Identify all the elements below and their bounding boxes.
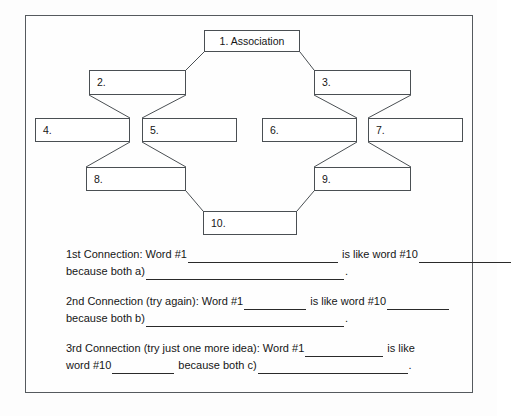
prompt-second-line-2: because both b). [66, 310, 456, 327]
answer-blank-word1-first[interactable] [188, 250, 338, 263]
tree-node-label: 1. Association [220, 36, 285, 47]
answer-blank-reason-a[interactable] [146, 267, 344, 280]
tree-node-n10[interactable]: 10. [203, 211, 297, 235]
tree-node-n5[interactable]: 5. [142, 118, 237, 142]
connector-n3-n6 [314, 95, 357, 118]
prompt-third-connection: 3rd Connection (try just one more idea):… [66, 340, 456, 374]
tree-node-label: 4. [36, 125, 52, 136]
tree-node-label: 9. [315, 174, 331, 185]
tree-node-n4[interactable]: 4. [35, 118, 130, 142]
prompt-second-line-1: 2nd Connection (try again): Word #1 is l… [66, 293, 456, 310]
connector-n5-n8 [142, 142, 186, 167]
connector-n7-n9 [368, 142, 411, 167]
prompt-second-mid: is like word #10 [310, 295, 386, 307]
connector-n3-n7 [368, 95, 411, 118]
connector-n4-n8 [86, 142, 130, 167]
connector-n9-n10 [297, 191, 314, 211]
prompt-second-connection: 2nd Connection (try again): Word #1 is l… [66, 293, 456, 327]
prompt-second-period: . [345, 312, 348, 324]
prompt-third-because: because both c) [178, 359, 256, 371]
prompt-first-mid: is like word #10 [342, 248, 418, 260]
connector-n2-n5 [142, 95, 186, 118]
tree-node-label: 5. [143, 125, 159, 136]
prompt-first-line-2: because both a). [66, 263, 456, 280]
answer-blank-word10-first[interactable] [419, 250, 511, 263]
tree-node-label: 8. [87, 174, 103, 185]
prompt-first-period: . [345, 265, 348, 277]
prompt-third-period: . [409, 359, 412, 371]
answer-blank-word10-third[interactable] [112, 361, 174, 374]
prompt-third-word10: word #10 [66, 359, 111, 371]
connector-n1-n3 [300, 52, 314, 70]
prompt-third-line-2: word #10 because both c). [66, 357, 456, 374]
prompt-first-label: 1st Connection: Word #1 [66, 248, 187, 260]
prompt-first-connection: 1st Connection: Word #1 is like word #10… [66, 246, 456, 280]
tree-node-label: 3. [315, 77, 331, 88]
connector-n2-n4 [89, 95, 130, 118]
tree-node-n2[interactable]: 2. [89, 70, 186, 95]
tree-node-n7[interactable]: 7. [368, 118, 463, 142]
connector-n8-n10 [186, 191, 203, 211]
tree-node-label: 2. [90, 77, 106, 88]
prompt-first-line-1: 1st Connection: Word #1 is like word #10 [66, 246, 456, 263]
prompt-first-because: because both a) [66, 265, 145, 277]
answer-blank-reason-c[interactable] [258, 361, 408, 374]
tree-node-label: 6. [263, 125, 279, 136]
prompt-second-because: because both b) [66, 312, 145, 324]
tree-node-n1[interactable]: 1. Association [204, 30, 300, 52]
tree-node-label: 7. [369, 125, 385, 136]
tree-node-n9[interactable]: 9. [314, 167, 411, 191]
tree-node-label: 10. [204, 218, 226, 229]
answer-blank-reason-b[interactable] [146, 314, 344, 327]
answer-blank-word1-second[interactable] [244, 297, 306, 310]
prompt-third-mid: is like [387, 342, 415, 354]
connection-prompts: 1st Connection: Word #1 is like word #10… [66, 246, 456, 387]
tree-node-n8[interactable]: 8. [86, 167, 186, 191]
answer-blank-word1-third[interactable] [305, 344, 383, 357]
tree-node-n3[interactable]: 3. [314, 70, 411, 95]
connector-n1-n2 [186, 52, 204, 70]
connector-n6-n9 [314, 142, 357, 167]
prompt-second-label: 2nd Connection (try again): Word #1 [66, 295, 243, 307]
tree-node-n6[interactable]: 6. [262, 118, 357, 142]
prompt-third-line-1: 3rd Connection (try just one more idea):… [66, 340, 456, 357]
answer-blank-word10-second[interactable] [387, 297, 449, 310]
prompt-third-label: 3rd Connection (try just one more idea):… [66, 342, 304, 354]
